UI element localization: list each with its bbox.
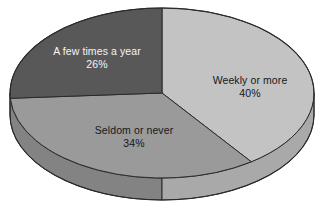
pie-label-seldom-or-never-name: Seldom or never bbox=[76, 124, 192, 137]
pie-label-weekly-or-more-value: 40% bbox=[196, 87, 304, 100]
pie-label-a-few-times-a-year-name: A few times a year bbox=[38, 45, 156, 58]
pie-label-seldom-or-never: Seldom or never 34% bbox=[76, 124, 192, 151]
pie-chart: Weekly or more 40% Seldom or never 34% A… bbox=[0, 0, 333, 220]
pie-chart-graphic bbox=[0, 0, 333, 220]
pie-label-a-few-times-a-year-value: 26% bbox=[38, 58, 156, 71]
pie-label-weekly-or-more: Weekly or more 40% bbox=[196, 74, 304, 101]
pie-label-weekly-or-more-name: Weekly or more bbox=[196, 74, 304, 87]
pie-label-seldom-or-never-value: 34% bbox=[76, 137, 192, 150]
pie-label-a-few-times-a-year: A few times a year 26% bbox=[38, 45, 156, 72]
